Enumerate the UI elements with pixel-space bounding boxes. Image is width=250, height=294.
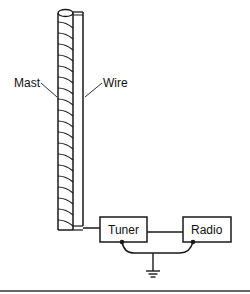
- wire-leader-line: [85, 83, 102, 97]
- tuner-label: Tuner: [108, 223, 139, 237]
- radio-label: Radio: [191, 223, 223, 237]
- wire: [73, 12, 100, 230]
- ground-icon: [146, 271, 160, 277]
- antenna-diagram: Mast Wire Tuner Radio: [0, 0, 250, 294]
- ground-wiring: [120, 240, 196, 271]
- mast-label: Mast: [14, 76, 41, 90]
- wire-label: Wire: [103, 76, 128, 90]
- wire-label-group: Wire: [85, 76, 128, 97]
- radio-box: Radio: [183, 217, 231, 242]
- mast-coil-windings: [58, 22, 73, 226]
- tuner-box: Tuner: [100, 217, 147, 242]
- mast-leader-line: [41, 83, 57, 97]
- mast-label-group: Mast: [14, 76, 57, 97]
- mast: [58, 10, 73, 231]
